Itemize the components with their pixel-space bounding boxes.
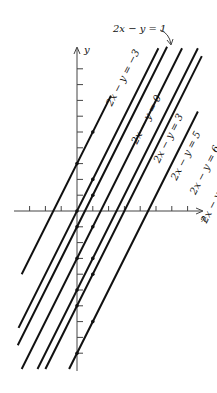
point-marker	[75, 257, 79, 261]
point-marker	[75, 304, 79, 308]
line-2x-y-9	[69, 111, 198, 369]
point-marker	[75, 225, 79, 229]
line-labels: 2x − y = −32x − y = 02x − y = 32x − y = …	[103, 48, 217, 226]
point-marker	[75, 209, 79, 213]
point-marker	[91, 272, 95, 276]
point-marker	[75, 288, 79, 292]
line-label: 2x − y = 0	[129, 92, 164, 146]
point-marker	[91, 130, 95, 134]
point-marker	[91, 320, 95, 324]
point-marker	[91, 225, 95, 229]
line-2x-y-0	[19, 48, 159, 328]
point-marker	[91, 178, 95, 182]
top-label-callout: 2x − y = 1	[112, 23, 173, 45]
top-line-label: 2x − y = 1	[112, 23, 167, 34]
point-marker	[75, 351, 79, 355]
y-axis-label: y	[83, 44, 90, 55]
linear-equations-diagram: x y 2x − y = −32x − y = 02x − y = 32x − …	[0, 0, 217, 393]
line-label: 2x − y = −3	[103, 48, 141, 109]
line-2x-y-6	[45, 56, 201, 369]
point-marker	[91, 257, 95, 261]
point-marker	[75, 162, 79, 166]
point-marker	[91, 193, 95, 197]
